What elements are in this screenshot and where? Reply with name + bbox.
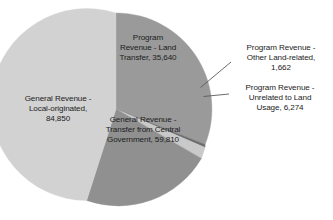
pie-slice-label-land-transfer: Program Revenue - Land Transfer, 35,640 bbox=[106, 33, 190, 64]
pie-slice-label-other-land-related: Program Revenue - Other Land-related, 1,… bbox=[232, 43, 330, 74]
pie-chart-figure: Program Revenue - Land Transfer, 35,640 … bbox=[0, 0, 333, 220]
pie-slice-label-central-transfer: General Revenue - Transfer from Central … bbox=[90, 115, 196, 146]
pie-slice-label-unrelated-land-usage: Program Revenue - Unrelated to Land Usag… bbox=[230, 83, 330, 114]
